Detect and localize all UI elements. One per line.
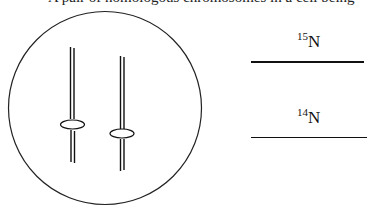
legend-line-14n-thin bbox=[251, 137, 367, 138]
legend-label-14n: 14N bbox=[297, 106, 320, 128]
element-symbol: N bbox=[308, 32, 320, 51]
legend-label-15n: 15N bbox=[297, 30, 320, 52]
mass-number: 15 bbox=[297, 30, 308, 42]
centromere-2 bbox=[110, 129, 134, 138]
element-symbol: N bbox=[308, 108, 320, 127]
cell-outline bbox=[9, 12, 202, 205]
legend-line-15n-thick bbox=[251, 61, 364, 63]
chromosome-1 bbox=[61, 47, 85, 163]
chromosome-2 bbox=[110, 56, 134, 171]
mass-number: 14 bbox=[297, 106, 308, 118]
centromere-1 bbox=[61, 120, 85, 129]
